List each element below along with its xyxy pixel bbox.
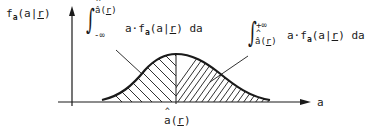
fn-symbol: f bbox=[6, 7, 13, 20]
density-plot bbox=[0, 0, 389, 135]
upper-close: ) bbox=[111, 5, 116, 15]
integrand-args-close: ) bbox=[338, 29, 345, 42]
y-axis-label: fa(a|r) bbox=[6, 8, 51, 19]
a-hat: a bbox=[164, 115, 171, 126]
left-hatch-region bbox=[60, 40, 230, 110]
left-integral-lower-limit: -∞ bbox=[94, 31, 105, 40]
right-integral-lower-limit: â(r) bbox=[255, 37, 277, 46]
x-axis-label: a bbox=[317, 97, 324, 108]
lower-close: ) bbox=[271, 36, 276, 46]
integrand-args-open: (a| bbox=[312, 29, 332, 42]
left-leader-line bbox=[116, 50, 142, 74]
fn-subscript: a bbox=[13, 13, 18, 22]
integrand-sub: a bbox=[307, 35, 312, 44]
a-hat: â( bbox=[255, 37, 266, 46]
integrand-pre: a·f bbox=[287, 29, 307, 42]
a-hat: â( bbox=[95, 6, 106, 15]
fn-args-close: ) bbox=[44, 7, 51, 20]
fn-arg-r: r bbox=[37, 7, 44, 20]
upper-base: â( bbox=[95, 5, 106, 15]
split-close: ) bbox=[184, 114, 191, 127]
differential: da bbox=[351, 29, 364, 42]
x-axis-arrow-icon bbox=[300, 99, 311, 105]
integrand-args-close: ) bbox=[176, 22, 183, 35]
right-hatch-region bbox=[160, 40, 318, 110]
left-integral-upper-limit: â(r) bbox=[95, 6, 117, 15]
integrand-args-open: (a| bbox=[150, 22, 170, 35]
left-integrand: a·fa(a|r) da bbox=[125, 23, 203, 34]
split-base: a bbox=[164, 114, 171, 127]
split-arg: r bbox=[177, 114, 184, 127]
fn-args-open: (a| bbox=[17, 7, 37, 20]
lower-base: â( bbox=[255, 36, 266, 46]
split-point-label: a(r) bbox=[164, 115, 191, 126]
right-integrand: a·fa(a|r) da bbox=[287, 30, 365, 41]
differential: da bbox=[189, 22, 202, 35]
y-axis-arrow-icon bbox=[69, 6, 75, 16]
integrand-pre: a·f bbox=[125, 22, 145, 35]
integrand-sub: a bbox=[145, 28, 150, 37]
